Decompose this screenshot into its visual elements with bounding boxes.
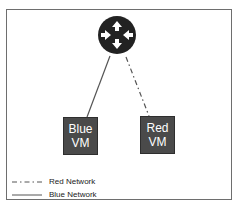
router-icon [98, 16, 136, 54]
red-vm-label-line2: VM [149, 135, 167, 149]
diagram-canvas [0, 0, 240, 212]
blue-vm-node: Blue VM [63, 117, 98, 155]
red-vm-node: Red VM [140, 116, 175, 154]
red-network-link [126, 57, 149, 116]
legend-red-network-label: Red Network [49, 177, 95, 186]
red-vm-label-line1: Red [146, 121, 168, 135]
blue-vm-label-line2: VM [72, 136, 90, 150]
legend-blue-network-label: Blue Network [49, 190, 97, 199]
blue-network-link [87, 56, 110, 117]
blue-vm-label-line1: Blue [68, 122, 92, 136]
